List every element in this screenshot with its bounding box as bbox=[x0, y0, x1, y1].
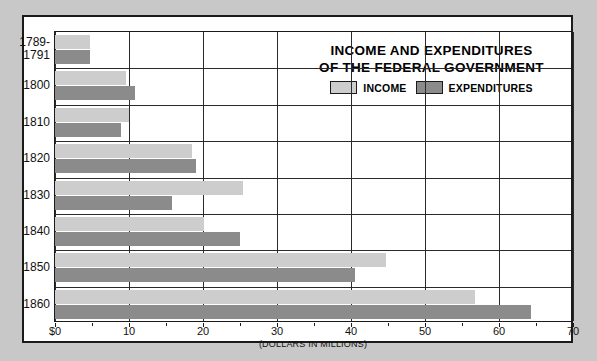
chart-row: 1860 bbox=[55, 287, 571, 323]
plot-area: 1789- 17911800181018201830184018501860$0… bbox=[54, 31, 572, 322]
bar-expenditures-1800 bbox=[55, 86, 135, 100]
x-gridline bbox=[573, 32, 574, 321]
bar-expenditures-1820 bbox=[55, 159, 196, 173]
bar-expenditures-1850 bbox=[55, 268, 355, 282]
bar-income-1860 bbox=[55, 290, 475, 304]
x-minor-tick bbox=[388, 323, 389, 326]
chart-row: 1810 bbox=[55, 105, 571, 141]
chart-row: 1800 bbox=[55, 68, 571, 104]
x-tick-label: $0 bbox=[49, 325, 61, 337]
bar-expenditures-1840 bbox=[55, 232, 240, 246]
y-axis-label: 1830 bbox=[0, 189, 50, 202]
y-axis-label: 1789- 1791 bbox=[0, 36, 50, 62]
bar-expenditures-1830 bbox=[55, 196, 172, 210]
x-tick-label: 10 bbox=[123, 325, 135, 337]
x-minor-tick bbox=[166, 323, 167, 326]
chart-figure: INCOME AND EXPENDITURES OF THE FEDERAL G… bbox=[0, 0, 597, 361]
y-axis-label: 1820 bbox=[0, 152, 50, 165]
x-minor-tick bbox=[240, 323, 241, 326]
chart-panel: INCOME AND EXPENDITURES OF THE FEDERAL G… bbox=[22, 15, 573, 343]
bar-income-1840 bbox=[55, 217, 204, 231]
y-axis-label: 1850 bbox=[0, 261, 50, 274]
x-tick-label: 70 bbox=[567, 325, 579, 337]
x-minor-tick bbox=[92, 323, 93, 326]
x-minor-tick bbox=[462, 323, 463, 326]
x-tick-label: 60 bbox=[493, 325, 505, 337]
x-tick-label: 50 bbox=[419, 325, 431, 337]
y-axis-label: 1840 bbox=[0, 225, 50, 238]
chart-row: 1830 bbox=[55, 178, 571, 214]
bar-income-1850 bbox=[55, 253, 386, 267]
x-tick-label: 40 bbox=[345, 325, 357, 337]
x-tick-label: 30 bbox=[271, 325, 283, 337]
chart-row: 1850 bbox=[55, 250, 571, 286]
x-axis-title: (DOLLARS IN MILLIONS) bbox=[54, 339, 572, 349]
bar-expenditures-1860 bbox=[55, 305, 531, 319]
bar-expenditures-1789-1791 bbox=[55, 50, 90, 64]
bar-income-1800 bbox=[55, 71, 126, 85]
y-axis-label: 1800 bbox=[0, 79, 50, 92]
x-tick-label: 20 bbox=[197, 325, 209, 337]
bar-income-1789-1791 bbox=[55, 35, 90, 49]
chart-row: 1789- 1791 bbox=[55, 32, 571, 68]
x-minor-tick bbox=[536, 323, 537, 326]
x-minor-tick bbox=[314, 323, 315, 326]
bar-expenditures-1810 bbox=[55, 123, 121, 137]
bar-income-1820 bbox=[55, 144, 192, 158]
bar-income-1830 bbox=[55, 181, 243, 195]
y-axis-label: 1810 bbox=[0, 116, 50, 129]
chart-row: 1820 bbox=[55, 141, 571, 177]
chart-row: 1840 bbox=[55, 214, 571, 250]
bar-income-1810 bbox=[55, 108, 129, 122]
y-axis-label: 1860 bbox=[0, 298, 50, 311]
